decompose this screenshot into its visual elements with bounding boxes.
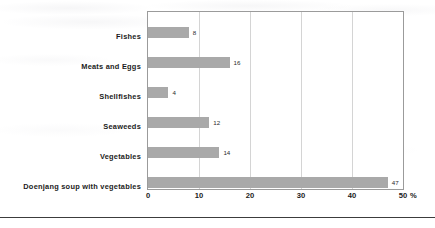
x-axis-unit: %: [410, 192, 417, 200]
category-axis-labels: Fishes Meats and Eggs Shellfishes Seawee…: [0, 11, 145, 190]
bar-seaweeds: [148, 117, 209, 128]
category-label-fishes: Fishes: [0, 33, 141, 40]
bar-meats-and-eggs: [148, 57, 230, 68]
bar-value-seaweeds: 12: [213, 120, 220, 126]
plot-area: 8 16 4 12 14 47: [147, 11, 404, 190]
x-tick-40: 40: [348, 192, 356, 200]
horizontal-bar-chart: Fishes Meats and Eggs Shellfishes Seawee…: [0, 0, 435, 228]
x-tick-20: 20: [246, 192, 254, 200]
bar-vegetables: [148, 147, 219, 158]
category-label-meats-and-eggs: Meats and Eggs: [0, 63, 141, 70]
bar-value-vegetables: 14: [223, 150, 230, 156]
gridline-40: [352, 12, 353, 189]
gridline-10: [199, 12, 200, 189]
bar-value-meats-and-eggs: 16: [234, 60, 241, 66]
x-tick-30: 30: [297, 192, 305, 200]
plot-inner: 8 16 4 12 14 47: [148, 12, 403, 189]
bar-value-fishes: 8: [193, 30, 196, 36]
category-label-shellfishes: Shellfishes: [0, 93, 141, 100]
x-tick-0: 0: [146, 192, 150, 200]
bar-doenjang-soup-with-vegetables: [148, 177, 388, 188]
x-axis: 0 10 20 30 40 50 %: [147, 192, 427, 208]
bar-shellfishes: [148, 87, 168, 98]
bar-value-shellfishes: 4: [172, 90, 175, 96]
bar-fishes: [148, 27, 189, 38]
x-tick-10: 10: [195, 192, 203, 200]
gridline-20: [250, 12, 251, 189]
category-label-seaweeds: Seaweeds: [0, 123, 141, 130]
gridline-30: [301, 12, 302, 189]
bar-value-doenjang-soup-with-vegetables: 47: [392, 180, 399, 186]
category-label-doenjang-soup-with-vegetables: Doenjang soup with vegetables: [0, 183, 141, 190]
page-divider-rule: [0, 217, 435, 218]
x-tick-50: 50: [399, 192, 407, 200]
category-label-vegetables: Vegetables: [0, 153, 141, 160]
